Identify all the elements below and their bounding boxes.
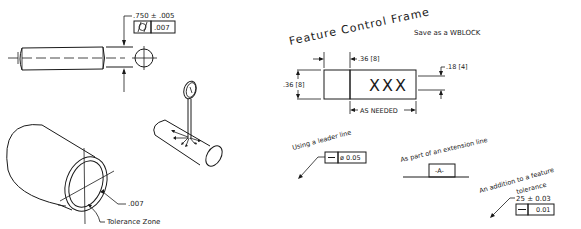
leader-example: Using a leader line ø 0.05 xyxy=(291,128,366,179)
feature-example: An addition to a feature tolerance 25 ± … xyxy=(478,166,555,218)
extension-label: As part of an extension line xyxy=(400,136,489,164)
fcf-title: Feature Control Frame xyxy=(288,5,431,48)
text-height-dim: .18 [4] xyxy=(446,63,468,71)
feature-dimension: 25 ± 0.03 xyxy=(516,195,551,203)
cylindricity-symbol-icon xyxy=(138,22,147,32)
tolerance-zone-label: Tolerance Zone xyxy=(106,218,160,226)
leader-label: Using a leader line xyxy=(291,128,352,151)
datum-label: -A- xyxy=(435,167,445,175)
wblock-note: Save as a WBLOCK xyxy=(414,29,481,37)
tolerance-zone-value: .007 xyxy=(128,200,144,208)
drawing-canvas: .750 ± .005 .007 xyxy=(0,0,581,229)
tube-drawing: .007 Tolerance Zone xyxy=(7,125,161,226)
first-cell-width-dim: .36 [8] xyxy=(358,55,380,63)
shaft-drawing: .750 ± .005 .007 xyxy=(8,12,175,92)
leader-tolerance: ø 0.05 xyxy=(340,154,361,162)
length-note: AS NEEDED xyxy=(360,107,398,115)
fcf-content: XXX xyxy=(369,76,408,95)
dial-indicator-drawing xyxy=(154,80,226,169)
frame-height-dim: .36 [8] xyxy=(283,81,305,89)
extension-example: As part of an extension line -A- xyxy=(400,136,489,177)
feature-tolerance: 0.01 xyxy=(536,206,550,214)
fcf-template: XXX .36 [8] .36 [8] .18 [4] AS NEEDED xyxy=(283,52,468,115)
fcf-title-group: Feature Control Frame Save as a WBLOCK xyxy=(288,5,481,48)
shaft-fcf-tolerance: .007 xyxy=(154,24,170,32)
shaft-dimension: .750 ± .005 xyxy=(133,12,175,20)
